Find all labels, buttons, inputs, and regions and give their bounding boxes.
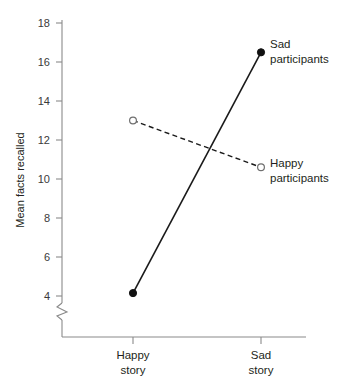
y-axis-tick-labels: 18 16 14 12 10 8 6 4 xyxy=(38,17,50,302)
y-tick-label-12: 12 xyxy=(38,134,50,146)
legend-label-sad-participants-line1: Sad xyxy=(270,38,290,50)
x-axis-ticks xyxy=(133,337,261,344)
x-label-happy-story-line1: Happy xyxy=(116,349,149,361)
y-tick-label-8: 8 xyxy=(44,212,50,224)
y-axis-ticks xyxy=(56,23,62,296)
legend-label-happy-participants-line1: Happy xyxy=(270,157,303,169)
x-label-sad-story-line1: Sad xyxy=(251,349,271,361)
series-happy-participants xyxy=(130,117,265,171)
legend-happy-participants: Happy participants xyxy=(270,157,329,184)
y-tick-label-16: 16 xyxy=(38,56,50,68)
legend-sad-participants: Sad participants xyxy=(270,38,329,65)
y-axis-break-icon xyxy=(57,303,67,320)
data-point-sad-participants-sad-story xyxy=(257,49,264,56)
x-label-happy-story-line2: story xyxy=(121,364,146,376)
y-tick-label-10: 10 xyxy=(38,173,50,185)
y-tick-label-6: 6 xyxy=(44,251,50,263)
legend-label-happy-participants-line2: participants xyxy=(270,172,329,184)
chart-container: 18 16 14 12 10 8 6 4 Mean facts recalled… xyxy=(0,0,343,385)
x-label-sad-story-line2: story xyxy=(249,364,274,376)
x-axis-category-labels: Happy story Sad story xyxy=(116,349,273,376)
data-point-happy-participants-sad-story xyxy=(258,164,265,171)
series-sad-participants xyxy=(129,49,264,297)
y-tick-label-18: 18 xyxy=(38,17,50,29)
y-tick-label-4: 4 xyxy=(44,290,50,302)
data-point-sad-participants-happy-story xyxy=(129,290,136,297)
data-point-happy-participants-happy-story xyxy=(130,117,137,124)
series-happy-participants-line xyxy=(133,121,261,168)
y-tick-label-14: 14 xyxy=(38,95,50,107)
series-sad-participants-line xyxy=(133,52,261,293)
line-chart: 18 16 14 12 10 8 6 4 Mean facts recalled… xyxy=(0,0,343,385)
y-axis-title: Mean facts recalled xyxy=(14,132,26,227)
legend-label-sad-participants-line2: participants xyxy=(270,53,329,65)
